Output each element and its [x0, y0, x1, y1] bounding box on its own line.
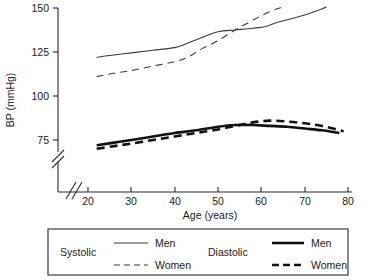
chart-canvas: 150 125 100 75 BP (mmHg) 20 — [0, 0, 365, 280]
legend-label-systolic-women: Women — [155, 259, 191, 271]
series-line-diastolic-men — [97, 125, 340, 145]
blood-pressure-by-age-figure: 150 125 100 75 BP (mmHg) 20 — [0, 0, 365, 280]
x-tick-label-20: 20 — [82, 195, 94, 207]
legend-label-diastolic-women: Women — [311, 259, 347, 271]
series-line-diastolic-women — [97, 121, 344, 149]
y-axis: 150 125 100 75 BP (mmHg) — [4, 2, 64, 192]
x-axis-title: Age (years) — [183, 209, 237, 221]
x-tick-label-40: 40 — [169, 195, 181, 207]
y-tick-label-125: 125 — [31, 46, 49, 58]
x-tick-label-80: 80 — [342, 195, 354, 207]
x-tick-label-30: 30 — [125, 195, 137, 207]
legend: Systolic Men Women Diastolic Men Women — [48, 229, 348, 275]
x-tick-label-60: 60 — [255, 195, 267, 207]
legend-label-diastolic-men: Men — [311, 237, 332, 249]
x-axis: 20 30 40 50 60 70 80 Age (years) — [58, 182, 354, 221]
series-line-systolic-men — [97, 7, 327, 57]
series-group — [97, 7, 344, 149]
y-tick-label-75: 75 — [37, 134, 49, 146]
x-tick-label-70: 70 — [299, 195, 311, 207]
x-tick-label-50: 50 — [212, 195, 224, 207]
legend-group-label-diastolic: Diastolic — [208, 246, 248, 258]
legend-label-systolic-men: Men — [155, 237, 176, 249]
y-axis-title: BP (mmHg) — [4, 73, 16, 128]
y-tick-label-100: 100 — [31, 90, 49, 102]
x-axis-break-icon — [66, 182, 82, 199]
legend-group-label-systolic: Systolic — [60, 246, 96, 258]
y-tick-label-150: 150 — [31, 2, 49, 14]
